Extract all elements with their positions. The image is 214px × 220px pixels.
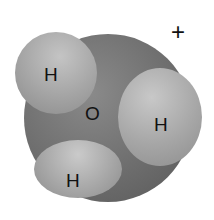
hydrogen-label-right: H: [154, 115, 168, 134]
positive-charge-sign: +: [171, 20, 185, 44]
hydrogen-label-lower-left: H: [66, 171, 80, 190]
oxygen-label: O: [85, 104, 100, 123]
hydrogen-label-upper-left: H: [44, 65, 58, 84]
hydronium-diagram: O H H H +: [0, 0, 214, 220]
